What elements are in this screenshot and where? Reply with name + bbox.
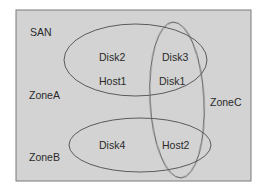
node-disk4: Disk4: [99, 139, 125, 151]
node-disk3: Disk3: [162, 51, 188, 63]
node-host1: Host1: [99, 75, 126, 87]
san-zoning-diagram: SAN ZoneA ZoneB ZoneC Disk2 Host1 Disk3 …: [0, 0, 265, 190]
node-disk2: Disk2: [99, 51, 125, 63]
node-disk1: Disk1: [159, 75, 185, 87]
zone-b-label: ZoneB: [29, 151, 60, 163]
node-host2: Host2: [162, 139, 189, 151]
zone-c-label: ZoneC: [210, 96, 242, 108]
zone-a-label: ZoneA: [29, 89, 60, 101]
san-label: SAN: [30, 26, 52, 38]
